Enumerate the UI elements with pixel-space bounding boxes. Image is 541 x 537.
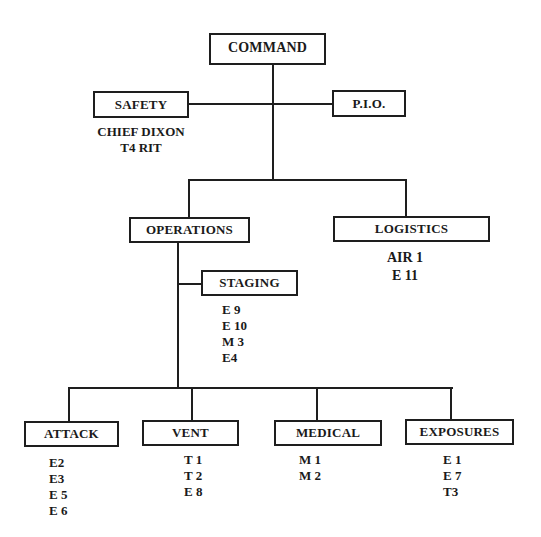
list-item: T4 RIT (93, 140, 189, 156)
list-item: E 9 (222, 302, 247, 318)
vent-box: VENT (142, 420, 239, 446)
list-item: E 1 (443, 452, 461, 468)
ops-logistics-bar-line (189, 179, 406, 181)
list-item: M 3 (222, 334, 247, 350)
list-item: E 6 (49, 503, 67, 519)
list-item: E 5 (49, 487, 67, 503)
staging-box: STAGING (201, 270, 298, 296)
operations-box: OPERATIONS (129, 217, 250, 243)
list-item: M 2 (299, 468, 321, 484)
attack-assigned-list: E2 E3 E 5 E 6 (49, 455, 67, 519)
staging-connector-line (177, 283, 201, 285)
logistics-label: LOGISTICS (375, 221, 448, 237)
exposures-drop-line (450, 387, 452, 419)
staging-label: STAGING (219, 275, 279, 291)
list-item: T 1 (184, 452, 202, 468)
safety-box: SAFETY (93, 91, 189, 118)
list-item: E 7 (443, 468, 461, 484)
safety-pio-connector-line (189, 103, 332, 105)
command-label: COMMAND (228, 40, 307, 56)
vent-drop-line (191, 387, 193, 420)
attack-label: ATTACK (44, 426, 99, 442)
list-item: E4 (222, 350, 247, 366)
list-item: E 8 (184, 484, 202, 500)
safety-label: SAFETY (115, 97, 168, 113)
exposures-assigned-list: E 1 E 7 T3 (443, 452, 461, 500)
pio-label: P.I.O. (353, 96, 386, 112)
list-item: E 11 (370, 267, 440, 285)
list-item: E 10 (222, 318, 247, 334)
medical-drop-line (316, 387, 318, 420)
attack-box: ATTACK (24, 421, 119, 447)
list-item: T3 (443, 484, 461, 500)
medical-box: MEDICAL (274, 420, 382, 446)
command-box: COMMAND (209, 33, 326, 65)
logistics-assigned-list: AIR 1 E 11 (370, 249, 440, 285)
safety-assigned-list: CHIEF DIXON T4 RIT (93, 124, 189, 156)
logistics-box: LOGISTICS (333, 216, 490, 242)
attack-drop-line (68, 387, 70, 421)
logistics-drop-line (405, 179, 407, 216)
operations-trunk-line (177, 243, 179, 389)
staging-assigned-list: E 9 E 10 M 3 E4 (222, 302, 247, 366)
divisions-bar-line (68, 387, 453, 389)
list-item: E2 (49, 455, 67, 471)
medical-label: MEDICAL (296, 425, 360, 441)
list-item: M 1 (299, 452, 321, 468)
vent-label: VENT (172, 425, 209, 441)
exposures-box: EXPOSURES (405, 419, 514, 445)
operations-label: OPERATIONS (146, 222, 233, 238)
exposures-label: EXPOSURES (420, 424, 500, 440)
pio-box: P.I.O. (332, 90, 406, 117)
list-item: T 2 (184, 468, 202, 484)
list-item: AIR 1 (370, 249, 440, 267)
medical-assigned-list: M 1 M 2 (299, 452, 321, 484)
list-item: CHIEF DIXON (93, 124, 189, 140)
vent-assigned-list: T 1 T 2 E 8 (184, 452, 202, 500)
ops-drop-line (188, 179, 190, 217)
command-trunk-line (272, 65, 274, 181)
list-item: E3 (49, 471, 67, 487)
